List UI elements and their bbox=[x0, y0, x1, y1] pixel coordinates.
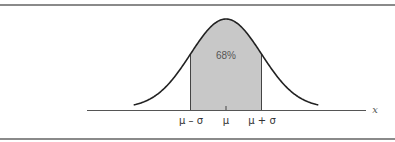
bottom-rule bbox=[0, 138, 395, 140]
tick-label-mu-minus-sigma: μ – σ bbox=[179, 115, 204, 126]
tick-label-mu-plus-sigma: μ + σ bbox=[248, 115, 276, 126]
normal-distribution-chart: 68% μ – σ μ μ + σ x bbox=[0, 0, 395, 142]
area-percent-label: 68% bbox=[216, 50, 236, 61]
shaded-area-68 bbox=[191, 19, 262, 110]
tick-label-mu: μ bbox=[223, 115, 230, 126]
x-axis-label: x bbox=[372, 104, 378, 115]
